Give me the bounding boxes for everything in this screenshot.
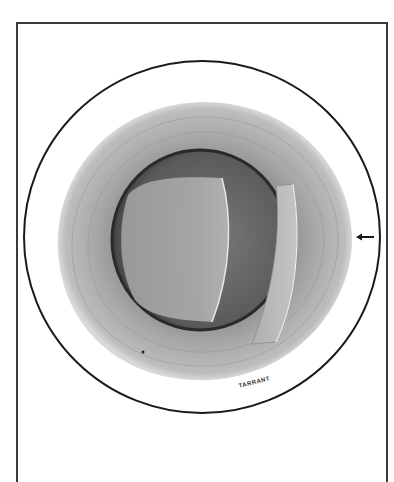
lens-optic <box>121 177 228 322</box>
arrow-left-icon <box>356 234 374 241</box>
